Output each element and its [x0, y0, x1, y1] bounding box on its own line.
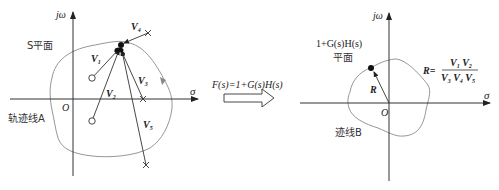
f-plane-sigma-label: σ — [484, 89, 490, 101]
v5-label: V5 — [143, 119, 153, 131]
f-plane-title-line2: 平面 — [333, 52, 353, 63]
vector-v5 — [122, 51, 146, 165]
f-plane-title-line1: 1+G(s)H(s) — [316, 38, 362, 50]
r-label: R — [369, 84, 377, 95]
zero-marker-2 — [89, 118, 95, 124]
mapping-function-label: F(s)=1+G(s)H(s) — [211, 79, 283, 91]
v2-label: V2 — [106, 88, 116, 100]
s-plane-jw-label: jω — [54, 9, 66, 20]
formula-numerator: V1 V2 — [450, 57, 472, 69]
s-plane-sigma-label: σ — [190, 85, 196, 97]
arrowheads-cluster — [115, 48, 124, 53]
f-plane-jw-label: jω — [371, 10, 383, 21]
v4-label: V4 — [131, 21, 141, 33]
s-plane-title: S平面 — [27, 40, 53, 51]
mapping-arrow-group: F(s)=1+G(s)H(s) — [211, 79, 283, 107]
hollow-arrow-icon — [224, 89, 274, 107]
formula-lhs: R= — [422, 65, 436, 76]
pole-marker-1 — [145, 30, 151, 36]
contour-point-s — [118, 42, 124, 48]
contour-a-label: 轨迹线A — [8, 112, 45, 124]
v3-label: V3 — [138, 75, 148, 87]
v1-label: V1 — [91, 53, 101, 65]
f-plane: jω σ O 1+G(s)H(s) 平面 迹线B R R= V1 V2 V3 V… — [300, 10, 490, 181]
zero-marker-1 — [89, 75, 95, 81]
formula-denominator: V3 V4 V5 — [441, 72, 475, 84]
contour-point-f — [368, 65, 374, 71]
f-plane-origin-label: O — [381, 107, 388, 118]
contour-b-label: 迹线B — [335, 126, 362, 138]
r-formula: R= V1 V2 V3 V4 V5 — [422, 57, 478, 84]
mapping-diagram: jω σ O S平面 轨迹线A V1 V2 V3 V4 V5 F(s)=1+G(… — [0, 0, 499, 190]
s-plane-origin-label: O — [62, 102, 69, 113]
s-plane: jω σ O S平面 轨迹线A V1 V2 V3 V4 V5 — [8, 9, 198, 176]
vector-v4 — [124, 33, 148, 43]
